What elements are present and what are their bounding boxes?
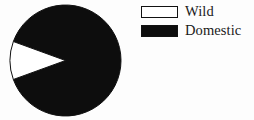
chart-legend: Wild Domestic: [141, 2, 253, 42]
pie-chart-figure: Wild Domestic: [0, 0, 254, 120]
black-swatch-icon: [141, 25, 178, 37]
pie-chart-svg: [0, 0, 132, 120]
legend-item-wild[interactable]: Wild: [141, 2, 253, 21]
legend-item-domestic[interactable]: Domestic: [141, 21, 253, 40]
legend-label-wild: Wild: [185, 4, 214, 19]
white-swatch-icon: [141, 6, 178, 18]
legend-label-domestic: Domestic: [185, 23, 241, 38]
pie-chart-plot-area: [0, 0, 132, 120]
